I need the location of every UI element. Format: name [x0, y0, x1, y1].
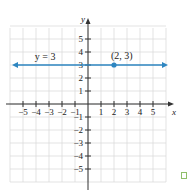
y-tick-label: −5 — [73, 164, 83, 174]
y-tick-label: −2 — [73, 125, 83, 135]
x-tick-label: 4 — [138, 107, 143, 117]
y-tick-label: −3 — [73, 138, 83, 148]
y-axis-arrow-icon — [86, 18, 91, 24]
left-arrow-icon — [12, 62, 18, 68]
y-tick-label: 4 — [79, 47, 84, 57]
point-marker — [111, 62, 116, 67]
y-axis-label: y — [80, 14, 85, 24]
point-annotation: (2, 3) — [111, 50, 133, 62]
y-tick-label: 5 — [79, 34, 84, 44]
y-tick-label: −1 — [73, 112, 83, 122]
x-tick-label: −3 — [44, 107, 54, 117]
x-tick-label: 2 — [112, 107, 117, 117]
x-tick-label: −2 — [57, 107, 67, 117]
x-tick-label: 5 — [151, 107, 156, 117]
x-tick-label: −5 — [18, 107, 28, 117]
x-tick-label: 1 — [99, 107, 104, 117]
x-axis-arrow-icon — [168, 102, 174, 107]
y-tick-label: 1 — [79, 86, 84, 96]
line-annotation: y = 3 — [35, 51, 56, 62]
coordinate-plane: −5−4−3−2−112345−5−4−3−2−112345xyy = 3(2,… — [0, 0, 190, 196]
right-arrow-icon — [162, 62, 168, 68]
corner-marker-icon — [181, 172, 187, 179]
x-tick-label: 3 — [125, 107, 130, 117]
y-tick-label: 2 — [79, 73, 84, 83]
x-axis-label: x — [171, 107, 176, 117]
x-tick-label: −4 — [31, 107, 41, 117]
y-tick-label: −4 — [73, 151, 83, 161]
